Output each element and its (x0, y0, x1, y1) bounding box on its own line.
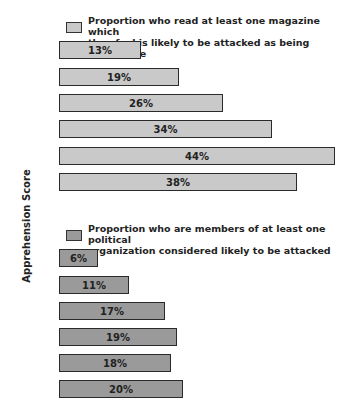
value-label: 19% (107, 72, 131, 83)
bar: 26% (59, 94, 223, 112)
bar: 38% (59, 173, 297, 191)
legend-line: Proportion who read at least one magazin… (88, 15, 348, 37)
value-label: 26% (129, 98, 153, 109)
legend-political: Proportion who are members of at least o… (66, 223, 348, 256)
value-label: 17% (100, 306, 124, 317)
legend-line: organization considered likely to be att… (88, 245, 348, 256)
value-label: 18% (103, 358, 127, 369)
bar: 34% (59, 120, 272, 138)
legend-text: Proportion who are members of at least o… (88, 223, 348, 256)
y-axis-label: Apprehension Score (21, 169, 32, 282)
value-label: 38% (166, 177, 190, 188)
legend-line: Proportion who are members of at least o… (88, 223, 348, 245)
value-label: 34% (154, 124, 178, 135)
bar: 20% (59, 380, 183, 398)
bar: 6% (59, 249, 98, 267)
value-label: 13% (88, 45, 112, 56)
bar: 19% (59, 68, 179, 86)
bar: 19% (59, 328, 177, 346)
bar: 13% (59, 41, 141, 59)
bar: 44% (59, 147, 335, 165)
value-label: 11% (82, 280, 106, 291)
bar: 18% (59, 354, 171, 372)
bar: 11% (59, 276, 129, 294)
value-label: 19% (106, 332, 130, 343)
legend-swatch-dark (66, 230, 82, 241)
value-label: 20% (109, 384, 133, 395)
value-label: 44% (185, 151, 209, 162)
value-label: 6% (70, 253, 87, 264)
bar: 17% (59, 302, 165, 320)
legend-swatch-light (66, 22, 82, 33)
